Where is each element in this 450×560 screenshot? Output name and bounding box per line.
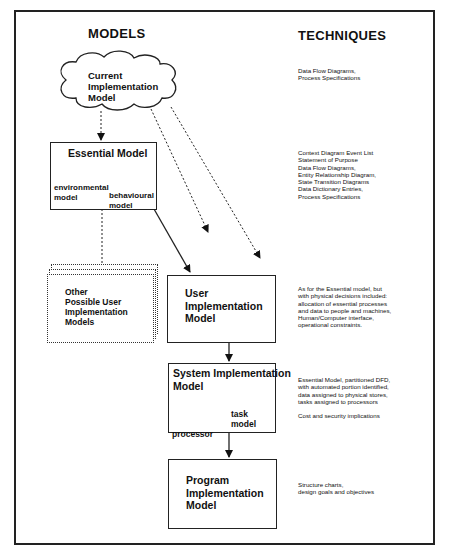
tech-current-2: Process Specifications [298,74,360,81]
other-line-1: Other [65,287,128,297]
essential-model-title: Essential Model [68,147,147,160]
user-model-label: User Implementation Model [185,287,263,325]
user-implementation-model-box: User Implementation Model [167,275,276,343]
behavioural-model: behavioural model [109,191,154,211]
task-line-1: task [231,409,256,419]
tech-system-4: tasks assigned to processors [298,398,390,405]
tech-user-4: and data to people and machines, [298,307,391,314]
other-line-2: Possible User [65,297,128,307]
essential-model-box: Essential Model environmental model beha… [50,142,157,210]
system-implementation-model-box: System Implementation Model processor mo… [168,363,276,433]
program-line-3: Model [186,499,264,512]
tech-essential-3: Data Flow Diagrams, [298,164,376,171]
program-model-label: Program Implementation Model [186,474,264,512]
tech-user-2: with physical decisions included: [298,292,391,299]
other-line-3: Implementation [65,307,128,317]
current-model-line-2: Implementation [88,81,158,92]
program-line-2: Implementation [186,487,264,500]
tech-user-3: allocation of essential processes [298,300,391,307]
user-line-3: Model [185,312,263,325]
tech-user-5: Human/Computer interface, [298,314,391,321]
techniques-essential: Context Diagram Event List Statement of … [298,149,376,200]
tech-essential-7: Process Specifications [298,193,376,200]
user-line-1: User [185,287,263,300]
tech-system-gap [298,405,390,412]
tech-system-2: with automated portion identified, [298,383,390,390]
tech-system-3: data assigned to physical stores, [298,391,390,398]
other-line-4: Models [65,317,128,327]
tech-essential-5: State Transition Diagrams [298,178,376,185]
behavioural-line-2: model [109,201,154,211]
tech-program-1: Structure charts, [298,481,374,488]
tech-essential-6: Data Dictionary Entries, [298,185,376,192]
program-implementation-model-box: Program Implementation Model [168,459,277,529]
behavioural-line-1: behavioural [109,191,154,201]
other-models-box: Other Possible User Implementation Model… [47,274,154,343]
task-model: task model [231,409,256,429]
current-model-line-1: Current [88,70,158,81]
tech-current-1: Data Flow Diagrams, [298,67,360,74]
tech-essential-4: Entity Relationship Diagram, [298,171,376,178]
current-model-line-3: Model [88,92,158,103]
system-model-title: System Implementation Model [173,367,291,392]
environmental-line-1: environmental [54,183,109,193]
environmental-line-2: model [54,193,109,203]
current-implementation-model: Current Implementation Model [88,70,158,103]
user-line-2: Implementation [185,300,263,313]
tech-system-1: Essential Model, partitioned DFD, [298,376,390,383]
other-models-label: Other Possible User Implementation Model… [65,287,128,327]
system-line-2: Model [173,380,291,393]
task-line-2: model [231,419,256,429]
tech-program-2: design goals and objectives [298,488,374,495]
techniques-user: As for the Essential model, but with phy… [298,285,391,329]
environmental-model: environmental model [54,183,109,203]
tech-user-6: operational constraints. [298,321,391,328]
tech-essential-2: Statement of Purpose [298,156,376,163]
program-line-1: Program [186,474,264,487]
system-line-1: System Implementation [173,367,291,380]
processor-line-1: processor [172,429,213,439]
tech-system-extra: Cost and security implications [298,412,390,419]
techniques-program: Structure charts, design goals and objec… [298,481,374,496]
techniques-system: Essential Model, partitioned DFD, with a… [298,376,390,419]
tech-user-1: As for the Essential model, but [298,285,391,292]
techniques-current: Data Flow Diagrams, Process Specificatio… [298,67,360,82]
tech-essential-1: Context Diagram Event List [298,149,376,156]
